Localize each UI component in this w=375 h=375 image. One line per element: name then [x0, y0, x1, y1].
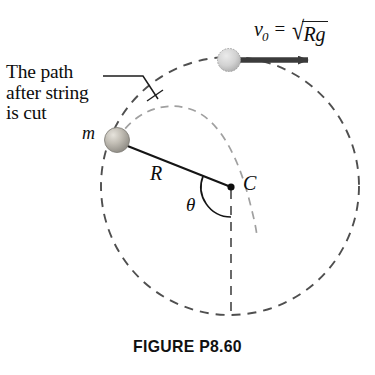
radicand: Rg — [302, 21, 327, 46]
figure-caption: FIGURE P8.60 — [13, 337, 362, 357]
figure-canvas — [0, 0, 375, 375]
label-radius-R: R — [150, 163, 162, 183]
annotation-line-1: The path — [6, 62, 89, 83]
annotation-leader-line — [103, 76, 158, 99]
label-center-C: C — [243, 173, 256, 193]
label-mass-m: m — [82, 124, 95, 142]
velocity-subscript: 0 — [262, 29, 269, 45]
center-point-dot — [227, 183, 234, 190]
annotation-line-3: is cut — [6, 103, 89, 124]
annotation-line-2: after string — [6, 83, 89, 104]
figure-container: The path after string is cut m R C θ v0 … — [0, 0, 375, 375]
label-angle-theta: θ — [186, 195, 195, 214]
radius-line — [120, 143, 231, 187]
projectile-path — [117, 106, 257, 236]
square-root-expression: √Rg — [289, 18, 328, 48]
mass-ball — [105, 128, 130, 153]
release-ball — [218, 49, 241, 72]
label-velocity-formula: v0 = √Rg — [254, 18, 328, 48]
equals-sign: = — [274, 18, 285, 40]
annotation-text: The path after string is cut — [6, 62, 89, 124]
annotation-leader-tick — [147, 90, 163, 101]
